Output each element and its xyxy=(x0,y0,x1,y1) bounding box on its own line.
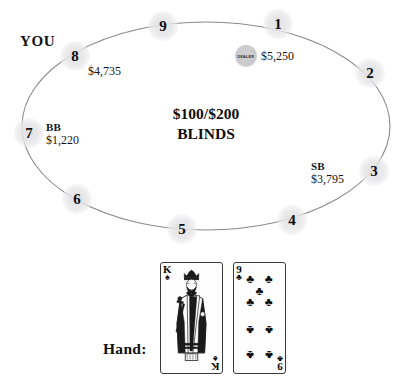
seat-marker-5[interactable]: 5 xyxy=(167,214,197,244)
club-pip: ♣ xyxy=(246,324,254,336)
hand-label: Hand: xyxy=(103,340,147,358)
seat-number-9: 9 xyxy=(159,19,167,34)
club-pip: ♣ xyxy=(265,273,273,285)
club-pip: ♣ xyxy=(265,296,273,308)
blinds-amount: $100/$200 xyxy=(173,105,239,122)
seat-number-8: 8 xyxy=(71,49,79,64)
seat-marker-6[interactable]: 6 xyxy=(62,184,92,214)
club-icon: ♣ xyxy=(277,355,283,363)
seat-marker-3[interactable]: 3 xyxy=(359,156,389,186)
seat-marker-8[interactable]: 8 xyxy=(60,41,90,71)
card-corner-bottom-right: 9 ♣ xyxy=(277,355,283,372)
club-pip: ♣ xyxy=(265,349,273,361)
seat-stack-amount-8: $4,735 xyxy=(88,64,121,78)
seat-number-5: 5 xyxy=(178,222,186,237)
seat-number-3: 3 xyxy=(370,164,378,179)
blinds-label: $100/$200 BLINDS xyxy=(173,104,239,144)
club-pip: ♣ xyxy=(265,324,273,336)
club-icon: ♣ xyxy=(236,273,242,281)
seat-stack-1: $5,250 xyxy=(261,50,294,63)
seat-number-2: 2 xyxy=(366,66,374,81)
seat-marker-7[interactable]: 7 xyxy=(14,118,44,148)
club-pip: ♣ xyxy=(246,296,254,308)
seat-number-7: 7 xyxy=(25,126,33,141)
seat-stack-amount-3: $3,795 xyxy=(311,172,344,186)
card-pip-layout: ♣ ♣ ♣ ♣ ♣ ♣ ♣ ♣ ♣ xyxy=(243,272,276,364)
dealer-button-label: DEALER xyxy=(238,54,255,59)
seat-marker-1[interactable]: 1 xyxy=(263,9,293,39)
hand-card-king-of-spades[interactable]: K ♠ K ♠ xyxy=(160,262,223,374)
seat-stack-8: $4,735 xyxy=(88,65,121,78)
seat-marker-4[interactable]: 4 xyxy=(277,205,307,235)
seat-number-4: 4 xyxy=(288,213,296,228)
club-pip: ♣ xyxy=(256,285,264,297)
club-pip: ♣ xyxy=(246,273,254,285)
dealer-button[interactable]: DEALER xyxy=(235,45,257,67)
seat-stack-3: SB $3,795 xyxy=(311,161,344,185)
club-pip: ♣ xyxy=(246,349,254,361)
seat-stack-7: BB $1,220 xyxy=(46,122,79,146)
seat-number-1: 1 xyxy=(274,17,282,32)
seat-marker-2[interactable]: 2 xyxy=(355,58,385,88)
seat-number-6: 6 xyxy=(73,192,81,207)
seat-stack-amount-7: $1,220 xyxy=(46,133,79,147)
card-corner-top-left: 9 ♣ xyxy=(236,264,242,281)
hand-card-nine-of-clubs[interactable]: 9 ♣ 9 ♣ ♣ ♣ ♣ ♣ ♣ ♣ ♣ ♣ ♣ xyxy=(233,262,286,374)
king-court-illustration xyxy=(161,263,222,373)
seat-marker-9[interactable]: 9 xyxy=(148,11,178,41)
poker-table: YOU $100/$200 BLINDS DEALER 1 2 3 4 5 6 … xyxy=(0,0,412,248)
blinds-word: BLINDS xyxy=(177,125,235,142)
hero-you-label: YOU xyxy=(20,33,55,50)
seat-stack-amount-1: $5,250 xyxy=(261,49,294,63)
